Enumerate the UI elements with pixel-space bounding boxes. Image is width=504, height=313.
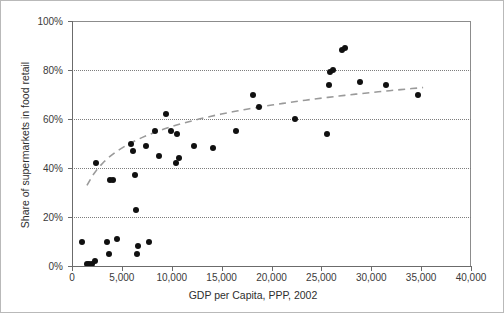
x-tick-mark — [72, 267, 73, 271]
scatter-chart-figure: 0%20%40%60%80%100% 05,00010,00015,00020,… — [0, 0, 504, 313]
x-tick-mark — [321, 267, 322, 271]
x-tick-label: 25,000 — [306, 272, 337, 283]
data-point — [415, 92, 421, 98]
data-point — [383, 82, 389, 88]
y-tick-mark — [68, 21, 72, 22]
data-point — [176, 155, 182, 161]
x-tick-label: 20,000 — [256, 272, 287, 283]
data-point — [143, 143, 149, 149]
x-tick-mark — [222, 267, 223, 271]
data-point — [342, 45, 348, 51]
data-point — [128, 141, 134, 147]
y-tick-label: 0% — [49, 261, 63, 272]
y-axis-title: Share of supermarkets in food retail — [19, 45, 31, 245]
y-tick-mark — [68, 70, 72, 71]
x-tick-mark — [471, 267, 472, 271]
x-tick-label: 40,000 — [456, 272, 487, 283]
x-tick-label: 30,000 — [356, 272, 387, 283]
y-tick-mark — [68, 168, 72, 169]
x-tick-label: 15,000 — [206, 272, 237, 283]
x-tick-mark — [272, 267, 273, 271]
y-tick-mark — [68, 119, 72, 120]
data-point — [174, 131, 180, 137]
data-point — [104, 239, 110, 245]
x-tick-label: 35,000 — [406, 272, 437, 283]
data-point — [133, 207, 139, 213]
y-tick-label: 60% — [43, 114, 63, 125]
data-point — [79, 239, 85, 245]
data-point — [168, 128, 174, 134]
y-tick-label: 40% — [43, 163, 63, 174]
data-point — [134, 251, 140, 257]
trend-line-path — [87, 88, 423, 186]
data-point — [114, 236, 120, 242]
x-tick-mark — [371, 267, 372, 271]
data-point — [191, 143, 197, 149]
y-tick-label: 20% — [43, 212, 63, 223]
x-axis-title: GDP per Capita, PPP, 2002 — [1, 289, 504, 301]
data-point — [146, 239, 152, 245]
x-tick-label: 10,000 — [156, 272, 187, 283]
x-tick-label: 0 — [69, 272, 75, 283]
y-tick-label: 80% — [43, 65, 63, 76]
data-point — [250, 92, 256, 98]
x-tick-mark — [421, 267, 422, 271]
data-point — [156, 153, 162, 159]
data-point — [106, 251, 112, 257]
plot-area — [72, 21, 471, 266]
y-tick-label: 100% — [37, 16, 63, 27]
y-axis-line — [72, 21, 73, 267]
x-tick-label: 5,000 — [109, 272, 134, 283]
x-tick-mark — [172, 267, 173, 271]
x-tick-mark — [122, 267, 123, 271]
data-point — [256, 104, 262, 110]
y-tick-mark — [68, 217, 72, 218]
data-point — [233, 128, 239, 134]
